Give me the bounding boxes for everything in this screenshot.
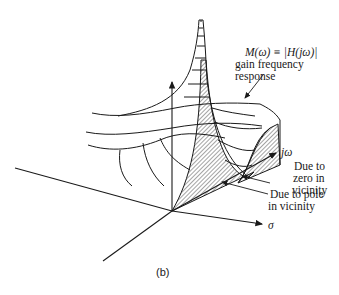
pole-annotation-line1: Due to pole — [270, 188, 324, 200]
gain-line3-label: response — [235, 70, 275, 82]
back-left-axis — [15, 168, 172, 211]
figure-caption: (b) — [156, 266, 169, 278]
sigma-axis — [172, 211, 262, 224]
gain-line2-label: gain frequency — [235, 58, 304, 70]
sigma-axis-label: σ — [268, 219, 274, 231]
jomega-axis-label: jω — [281, 146, 292, 158]
front-left-axis — [103, 211, 172, 261]
zero-annotation-line1: Due to — [294, 160, 325, 172]
pole-leader — [222, 182, 268, 194]
gain-formula-label: M(ω) ≡ |H(jω)| — [245, 46, 317, 58]
pole-annotation-line2: in vicinity — [268, 200, 315, 212]
zero-annotation-line2: zero in — [293, 172, 325, 184]
